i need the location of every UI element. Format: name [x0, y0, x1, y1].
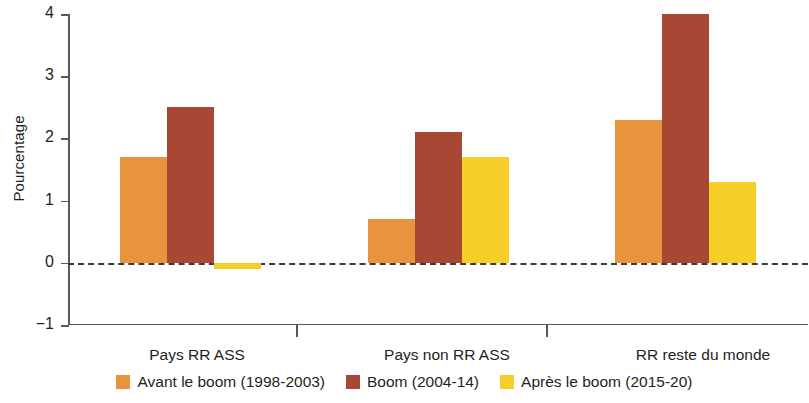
bar-1-1: [415, 132, 462, 263]
y-tick-4: 4: [61, 14, 69, 16]
bar-0-2: [214, 263, 261, 269]
x-axis-line: [68, 324, 808, 326]
bar-chart: Pourcentage 4 3 2 1 0 −1 Pays RR ASS Pay…: [0, 0, 809, 403]
legend-label-2: Après le boom (2015-20): [521, 372, 692, 392]
bar-0-0: [120, 157, 167, 263]
y-tick-label-2: 2: [45, 127, 54, 147]
category-label-0: Pays RR ASS: [120, 345, 274, 365]
bar-2-0: [615, 120, 662, 263]
y-tick-label-1: 1: [45, 190, 54, 210]
square-swatch-yellow-icon: [500, 375, 514, 389]
legend-label-0: Avant le boom (1998-2003): [137, 372, 325, 392]
legend-item-2[interactable]: Après le boom (2015-20): [500, 372, 692, 392]
y-axis-title: Pourcentage: [10, 89, 27, 229]
bar-0-1: [167, 107, 214, 263]
legend-label-1: Boom (2004-14): [367, 372, 479, 392]
y-tick-label-neg1: −1: [36, 314, 54, 334]
y-tick-2: 2: [61, 138, 69, 140]
square-swatch-darkred-icon: [346, 375, 360, 389]
legend-item-0[interactable]: Avant le boom (1998-2003): [116, 372, 325, 392]
category-label-1: Pays non RR ASS: [358, 345, 536, 365]
category-label-2: RR reste du monde: [608, 345, 798, 365]
group-separator-2: [546, 325, 548, 337]
y-tick-label-0: 0: [45, 252, 54, 272]
chart-legend: Avant le boom (1998-2003)Boom (2004-14)A…: [0, 372, 809, 392]
bar-1-0: [368, 219, 415, 263]
y-tick-neg1: −1: [61, 325, 69, 327]
bar-2-1: [662, 14, 709, 263]
y-tick-label-3: 3: [45, 65, 54, 85]
y-tick-1: 1: [61, 201, 69, 203]
zero-baseline: [68, 263, 808, 265]
square-swatch-orange-icon: [116, 375, 130, 389]
y-tick-3: 3: [61, 76, 69, 78]
bar-2-2: [709, 182, 756, 263]
bar-1-2: [462, 157, 509, 263]
legend-item-1[interactable]: Boom (2004-14): [346, 372, 479, 392]
plot-area: 4 3 2 1 0 −1 Pays RR ASS Pays non RR ASS…: [68, 14, 808, 325]
group-separator-1: [296, 325, 298, 337]
y-axis-line: [68, 14, 70, 325]
y-tick-label-4: 4: [45, 3, 54, 23]
